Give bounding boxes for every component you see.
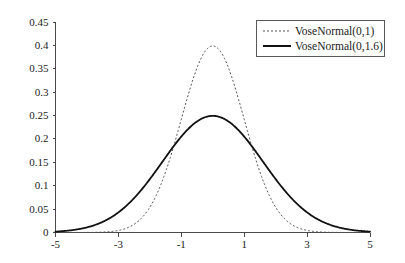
y-tick-label: 0.2 — [35, 132, 49, 144]
normal-distribution-chart: 00.050.10.150.20.250.30.350.40.45 -5-3-1… — [0, 0, 405, 263]
x-tick-label: -3 — [114, 238, 124, 250]
series-curve-vosenormal-0-1-6 — [56, 116, 371, 232]
x-axis-ticks — [56, 233, 371, 237]
legend: VoseNormal(0,1) VoseNormal(0,1.6) — [257, 21, 385, 57]
legend-label-0: VoseNormal(0,1) — [295, 25, 374, 38]
x-tick-label: 5 — [367, 238, 373, 250]
y-tick-label: 0.3 — [35, 86, 49, 98]
y-tick-label: 0.15 — [29, 156, 49, 168]
series-curve-vosenormal-0-1 — [56, 46, 371, 233]
y-tick-label: 0.05 — [29, 203, 49, 215]
y-axis-tick-labels: 00.050.10.150.20.250.30.350.40.45 — [29, 16, 49, 239]
y-tick-label: 0.4 — [35, 39, 49, 51]
y-tick-label: 0.25 — [29, 109, 49, 121]
x-tick-label: 3 — [304, 238, 310, 250]
x-axis-tick-labels: -5-3-1135 — [51, 238, 373, 250]
x-tick-label: -1 — [177, 238, 186, 250]
chart-container: 00.050.10.150.20.250.30.350.40.45 -5-3-1… — [0, 0, 405, 263]
y-tick-label: 0.45 — [29, 16, 49, 28]
x-tick-label: -5 — [51, 238, 61, 250]
y-tick-label: 0.35 — [29, 62, 49, 74]
x-tick-label: 1 — [241, 238, 247, 250]
legend-label-1: VoseNormal(0,1.6) — [295, 40, 383, 53]
y-tick-label: 0 — [43, 226, 49, 238]
y-tick-label: 0.1 — [35, 179, 49, 191]
